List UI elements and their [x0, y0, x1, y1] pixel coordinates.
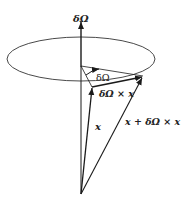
rotation-diagram: δΩ δΩ δΩ × x x x + δΩ × x [0, 0, 187, 203]
cross-label: δΩ × x [98, 88, 134, 99]
axis-label: δΩ [72, 13, 89, 24]
angle-label: δΩ [96, 72, 110, 83]
vector-x-label: x [94, 121, 102, 132]
radius-to-b [81, 66, 143, 76]
vector-x [81, 88, 92, 194]
radius-to-a [81, 66, 92, 87]
vector-sum-label: x + δΩ × x [124, 116, 181, 127]
